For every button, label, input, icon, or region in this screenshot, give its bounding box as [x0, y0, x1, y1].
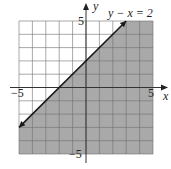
- x-axis-label: x: [162, 89, 169, 103]
- x-max-tick-label: 5: [148, 86, 154, 100]
- x-min-tick-label: −5: [11, 86, 24, 100]
- y-axis-label: y: [92, 0, 99, 13]
- y-axis-arrow-icon: [83, 3, 89, 10]
- y-min-tick-label: −5: [69, 147, 82, 161]
- inequality-graph: y − x = 2 y x −5 5 5 −5: [0, 0, 171, 169]
- y-max-tick-label: 5: [78, 14, 84, 28]
- equation-label: y − x = 2: [107, 6, 153, 20]
